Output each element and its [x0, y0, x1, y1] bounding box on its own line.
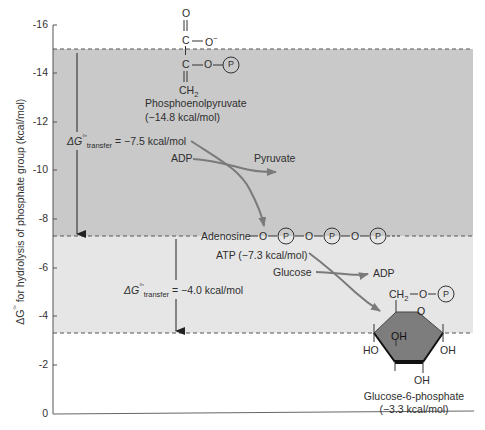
y-tick-label: -12 [24, 116, 48, 127]
pep-phosphate-label: P [228, 60, 234, 69]
g6p-oh-center: OH [391, 331, 407, 342]
y-tick-label: -8 [24, 213, 48, 224]
reaction2-output-adp: ADP [373, 268, 395, 279]
diagram-graphics [0, 0, 485, 430]
pep-energy: (−14.8 kcal/mol) [145, 112, 220, 123]
y-tick-label: -4 [24, 310, 48, 321]
pep-bonds [184, 20, 223, 82]
y-tick-label: -10 [24, 164, 48, 175]
g6p-name: Glucose-6-phosphate [354, 391, 474, 402]
y-tick-label: -16 [24, 19, 48, 30]
atp-p3: P [375, 232, 381, 241]
g6p-energy: (−3.3 kcal/mol) [354, 404, 474, 415]
reaction2-atp-to-g6p-arrow [309, 253, 380, 311]
y-tick-label: -6 [24, 262, 48, 273]
g6p-ho-left: HO [363, 345, 379, 356]
atp-o1: O [259, 231, 267, 242]
reaction2-input-glucose: Glucose [273, 267, 312, 278]
pep-name: Phosphoenolpyruvate [145, 98, 247, 109]
atp-energy: ATP (−7.3 kcal/mol) [216, 250, 308, 261]
pep-o-minus: O− [205, 35, 218, 47]
reaction2-glucose-to-adp-arrow [316, 272, 368, 275]
atp-p2: P [329, 232, 335, 241]
atp-adenosine: Adenosine [201, 231, 251, 242]
transfer2-label: ΔG°′transfer = −4.0 kcal/mol [124, 282, 243, 299]
y-tick-label: -14 [24, 67, 48, 78]
g6p-ch2: CH2 [389, 289, 408, 303]
atp-o3: O [351, 231, 359, 242]
g6p-phosphate-label: P [443, 290, 449, 299]
atp-o2: O [305, 231, 313, 242]
transfer1-label: ΔG°′transfer = −7.5 kcal/mol [67, 133, 186, 150]
g6p-oh-right: OH [440, 345, 456, 356]
g6p-oh-bottom: OH [414, 375, 430, 386]
g6p-ring-o: O [417, 306, 425, 317]
y-tick-label: 0 [24, 408, 48, 419]
g6p-o-link: O [419, 289, 427, 300]
reaction1-output-pyruvate: Pyruvate [254, 153, 295, 164]
pep-o-top: O [182, 8, 190, 19]
y-tick-label: -2 [24, 359, 48, 370]
pep-c1: C [182, 35, 190, 46]
atp-p1: P [283, 232, 289, 241]
pep-c2: C [182, 59, 190, 70]
g6p-ring [374, 312, 443, 362]
pep-o-link: O [204, 59, 212, 70]
reaction1-input-adp: ADP [171, 153, 193, 164]
y-axis-title: ΔG°′ for hydrolysis of phosphate group (… [12, 97, 26, 327]
